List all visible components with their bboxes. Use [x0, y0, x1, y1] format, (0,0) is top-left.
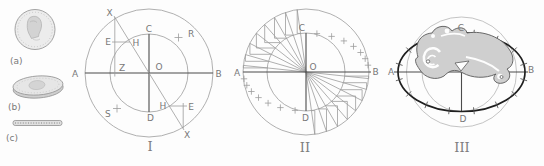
point-label-c: C	[299, 23, 305, 33]
diagram-1: A B C D O Z X X E H H E R S I	[72, 8, 222, 155]
point-marker-cross-s	[113, 105, 121, 113]
coin-tilted-photo	[12, 74, 63, 99]
point-label-r: R	[188, 29, 194, 39]
scroll-crest-notch-2	[431, 34, 435, 38]
point-label-a: A	[72, 69, 79, 79]
point-label-b: B	[372, 67, 378, 77]
scroll-hook-dot	[500, 76, 503, 79]
point-label-d: D	[147, 113, 154, 123]
point-label-c: C	[458, 23, 464, 33]
point-label-d: D	[302, 113, 309, 123]
construction-ray	[243, 65, 306, 72]
coin-front-photo	[15, 10, 55, 50]
point-label-e-top: E	[105, 37, 111, 47]
construction-ray	[245, 55, 306, 72]
point-label-e-bottom: E	[188, 102, 194, 112]
coin-b-label: (b)	[8, 102, 21, 112]
point-label-o: O	[310, 62, 317, 72]
scroll-ornament	[416, 26, 513, 83]
point-label-a: A	[234, 68, 241, 78]
figure-numeral-3: III	[454, 140, 469, 155]
coin-c-label: (c)	[6, 133, 18, 143]
scroll-crest-notch-1	[445, 29, 450, 34]
construction-ray	[306, 72, 356, 111]
point-label-b: B	[528, 65, 534, 75]
construction-ray	[256, 33, 306, 72]
point-label-s: S	[105, 109, 111, 119]
point-label-x-bottom: X	[184, 130, 190, 140]
point-label-a: A	[388, 67, 395, 77]
construction-ray	[306, 72, 367, 89]
point-label-h-bottom: H	[160, 101, 167, 111]
diagram-3: A B C D III	[388, 17, 534, 155]
figure-canvas: (a) (b) (c) A B C D O Z	[0, 0, 544, 166]
point-label-c: C	[146, 24, 152, 34]
point-label-b: B	[215, 69, 221, 79]
point-marker-cross-r	[175, 34, 183, 42]
construction-ray	[306, 72, 315, 134]
figure-numeral-1: I	[147, 139, 152, 154]
scroll-volute-dot	[426, 60, 429, 63]
point-label-z: Z	[119, 63, 125, 73]
point-label-h-top: H	[133, 38, 140, 48]
construction-ray	[297, 10, 306, 72]
figure-svg: (a) (b) (c) A B C D O Z	[0, 0, 544, 166]
point-label-x-top: X	[106, 8, 112, 18]
coin-a-label: (a)	[10, 56, 23, 66]
construction-ray	[306, 72, 369, 79]
coin-edge-photo	[13, 121, 62, 126]
ellipse-tick	[474, 107, 475, 114]
ellipse-tick	[449, 107, 450, 114]
diagram-2: A B C D O II	[234, 9, 379, 155]
figure-numeral-2: II	[300, 140, 310, 155]
point-label-d: D	[460, 114, 467, 124]
point-label-o: O	[156, 62, 163, 72]
